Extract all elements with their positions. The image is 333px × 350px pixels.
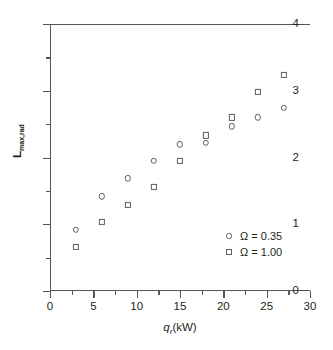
legend-circle-icon <box>218 233 240 238</box>
legend-row: Ω = 0.35 <box>218 228 282 244</box>
y-tick-major <box>43 224 50 225</box>
scatter-chart-figure: 01234051015202530 Lmax,rad qr(kW) Ω = 0.… <box>0 0 333 350</box>
data-point-marker <box>229 123 235 129</box>
x-tick-major <box>137 291 138 298</box>
data-point-marker <box>281 72 287 78</box>
x-tick-major <box>180 291 181 298</box>
y-tick-label: 1 <box>293 219 299 231</box>
x-tick-major <box>267 291 268 298</box>
y-tick-minor <box>46 191 50 192</box>
data-point-marker <box>255 114 261 120</box>
data-point-marker <box>203 132 209 138</box>
legend-label: Ω = 0.35 <box>240 231 282 242</box>
y-tick-major <box>43 91 50 92</box>
data-point-marker <box>125 202 131 208</box>
legend-label: Ω = 1.00 <box>240 247 282 258</box>
data-point-marker <box>151 158 157 164</box>
legend-row: Ω = 1.00 <box>218 244 282 260</box>
data-point-marker <box>281 105 287 111</box>
x-tick-major <box>223 291 224 298</box>
data-point-marker <box>99 193 105 199</box>
data-point-marker <box>99 218 105 224</box>
data-point-marker <box>203 140 209 146</box>
y-tick-major <box>43 158 50 159</box>
y-tick-minor <box>46 57 50 58</box>
y-axis-subscript: max,rad <box>18 124 25 151</box>
data-point-marker <box>255 89 261 95</box>
x-tick-major <box>93 291 94 298</box>
chart-legend: Ω = 0.35Ω = 1.00 <box>218 228 282 260</box>
y-tick-label: 0 <box>293 285 299 297</box>
x-tick-minor <box>115 291 116 295</box>
x-tick-minor <box>245 291 246 295</box>
y-tick-minor <box>46 258 50 259</box>
y-tick-major <box>43 291 50 292</box>
x-tick-major <box>310 291 311 298</box>
legend-square-icon <box>218 249 240 254</box>
x-tick-label: 20 <box>217 301 230 313</box>
y-axis-title: Lmax,rad <box>12 124 25 158</box>
data-point-marker <box>177 141 183 147</box>
data-point-marker <box>177 158 183 164</box>
data-point-marker <box>73 226 79 232</box>
x-tick-minor <box>202 291 203 295</box>
data-point-marker <box>73 244 79 250</box>
y-tick-label: 4 <box>293 18 299 30</box>
y-tick-label: 2 <box>293 152 299 164</box>
x-axis-unit: (kW) <box>172 321 196 333</box>
data-point-marker <box>229 114 235 120</box>
data-point-marker <box>125 175 131 181</box>
x-tick-label: 5 <box>90 301 96 313</box>
y-tick-major <box>43 24 50 25</box>
x-tick-label: 10 <box>130 301 143 313</box>
y-axis-symbol: L <box>11 151 23 158</box>
x-tick-minor <box>72 291 73 295</box>
y-tick-minor <box>46 124 50 125</box>
x-tick-label: 0 <box>47 301 53 313</box>
x-tick-minor <box>288 291 289 295</box>
x-axis-title: qr(kW) <box>50 322 310 336</box>
x-tick-label: 30 <box>304 301 317 313</box>
data-point-marker <box>151 184 157 190</box>
x-tick-label: 25 <box>260 301 273 313</box>
x-tick-label: 15 <box>174 301 187 313</box>
y-tick-label: 3 <box>293 85 299 97</box>
x-tick-minor <box>158 291 159 295</box>
x-tick-major <box>50 291 51 298</box>
